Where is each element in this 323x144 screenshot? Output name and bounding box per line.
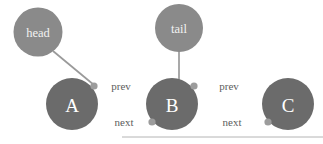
list-nodes: A B C [46,78,314,130]
edge-label-bg-b-next-a [109,116,139,129]
node-a-circle[interactable] [46,78,98,130]
connector-dot-b-prev-out[interactable] [190,82,197,89]
edge-label-bg-c-next-b [217,116,247,129]
edge-label-bg-b-prev-c [215,80,243,93]
pointer-tail[interactable]: tail [155,4,203,52]
tail-circle[interactable] [155,4,203,52]
connector-dot-a-prev-out[interactable] [90,82,97,89]
head-circle[interactable] [14,8,63,57]
edge-label-bg-a-prev-b [107,80,135,93]
connector-dot-b-next-out[interactable] [148,118,155,125]
pointer-head[interactable]: head [14,8,63,57]
node-a[interactable]: A [46,78,98,130]
pointer-nodes: head tail [14,4,204,57]
diagram-canvas: A B C head tail [0,0,323,144]
linked-list-diagram: A B C head tail [0,0,323,144]
connector-dot-c-next-out[interactable] [264,118,271,125]
